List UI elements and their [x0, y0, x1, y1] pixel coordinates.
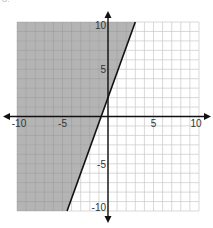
inequality-graph: -10-5510105-5-10 [0, 0, 213, 228]
y-tick-label: 10 [95, 20, 107, 31]
x-tick-label: 5 [151, 118, 157, 129]
y-tick-label: -10 [92, 202, 107, 213]
arrow-left-icon [3, 113, 10, 120]
x-tick-label: 10 [190, 118, 202, 129]
y-tick-label: 5 [100, 64, 106, 75]
arrow-up-icon [105, 11, 112, 18]
x-tick-label: -5 [58, 118, 67, 129]
arrow-right-icon [204, 113, 211, 120]
x-tick-label: -10 [12, 118, 27, 129]
y-tick-label: -5 [97, 159, 106, 170]
arrow-down-icon [105, 216, 112, 223]
